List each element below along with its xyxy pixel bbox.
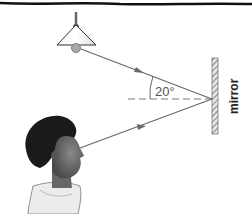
top-border (0, 3, 252, 4)
reflection-diagram: 20° mirror (0, 0, 252, 214)
angle-arc (150, 76, 153, 99)
incident-ray (81, 49, 212, 99)
angle-label: 20° (155, 84, 175, 99)
incident-arrow-icon (134, 67, 144, 73)
mirror (212, 58, 218, 134)
child-observer (25, 116, 84, 214)
mirror-label: mirror (227, 78, 241, 114)
lamp-icon (57, 12, 96, 53)
reflected-ray (80, 99, 212, 148)
